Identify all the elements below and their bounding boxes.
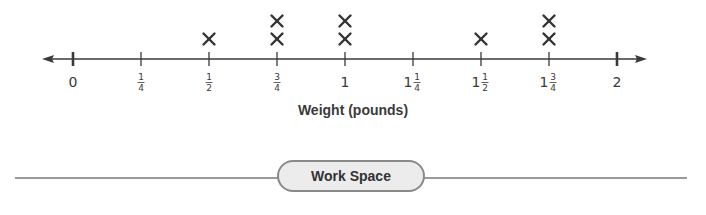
tick-label: 34 — [274, 72, 281, 93]
x-mark — [340, 34, 351, 45]
svg-text:1: 1 — [482, 72, 488, 82]
workspace-label-text: Work Space — [311, 168, 391, 184]
tick-label: 1 — [341, 74, 350, 90]
svg-text:2: 2 — [482, 83, 488, 93]
workspace-rule-left — [15, 177, 278, 179]
svg-text:4: 4 — [274, 83, 280, 93]
svg-text:4: 4 — [414, 83, 420, 93]
x-mark — [340, 16, 351, 27]
line-plot: 014123411141121342 — [0, 0, 706, 140]
tick-label: 14 — [138, 72, 145, 93]
tick-label: 0 — [69, 74, 78, 90]
workspace-label: Work Space — [277, 160, 425, 192]
svg-text:0: 0 — [69, 74, 78, 90]
x-mark — [204, 34, 215, 45]
x-axis-label: Weight (pounds) — [0, 102, 706, 118]
workspace-rule-right — [424, 177, 687, 179]
svg-text:1: 1 — [138, 72, 144, 82]
x-mark — [544, 34, 555, 45]
svg-text:3: 3 — [550, 72, 556, 82]
tick-label: 114 — [404, 72, 421, 93]
svg-text:1: 1 — [414, 72, 420, 82]
x-marks — [204, 16, 555, 45]
x-mark — [272, 16, 283, 27]
svg-text:1: 1 — [341, 74, 350, 90]
svg-text:4: 4 — [550, 83, 556, 93]
tick-label: 134 — [540, 72, 557, 93]
svg-text:1: 1 — [206, 72, 212, 82]
svg-text:2: 2 — [206, 83, 212, 93]
tick-label: 2 — [613, 74, 622, 90]
svg-text:1: 1 — [472, 74, 481, 90]
svg-text:2: 2 — [613, 74, 622, 90]
svg-text:1: 1 — [404, 74, 413, 90]
svg-text:4: 4 — [138, 83, 144, 93]
tick-label: 112 — [472, 72, 489, 93]
tick-labels: 014123411141121342 — [69, 72, 622, 93]
svg-text:3: 3 — [274, 72, 280, 82]
x-mark — [476, 34, 487, 45]
x-mark — [544, 16, 555, 27]
tick-label: 12 — [206, 72, 213, 93]
svg-text:1: 1 — [540, 74, 549, 90]
x-mark — [272, 34, 283, 45]
